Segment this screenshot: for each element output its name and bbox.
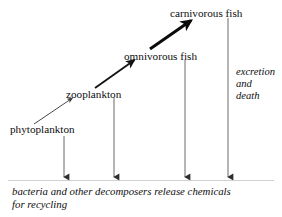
food-chain-diagram: phytoplankton zooplankton omnivorous fis… <box>0 0 282 217</box>
excretion-note-line-1: excretion <box>236 66 275 77</box>
decomposer-caption-line-1: bacteria and other decomposers release c… <box>12 185 231 198</box>
decomposer-caption-line-2: for recycling <box>12 198 231 211</box>
arrow-omnivorous-fish-to-carnivorous-fish <box>150 21 191 50</box>
arrow-phytoplankton-to-zooplankton <box>34 98 73 124</box>
node-carnivorous-fish: carnivorous fish <box>170 7 242 19</box>
node-phytoplankton: phytoplankton <box>10 123 75 135</box>
excretion-note-line-2: and <box>236 78 252 89</box>
excretion-note-line-3: death <box>236 90 260 101</box>
node-zooplankton: zooplankton <box>66 88 121 100</box>
arrow-zooplankton-to-omnivorous-fish <box>95 60 135 88</box>
decomposer-caption: bacteria and other decomposers release c… <box>12 185 231 210</box>
excretion-and-death-note: excretion and death <box>236 66 275 103</box>
node-omnivorous-fish: omnivorous fish <box>124 50 197 62</box>
